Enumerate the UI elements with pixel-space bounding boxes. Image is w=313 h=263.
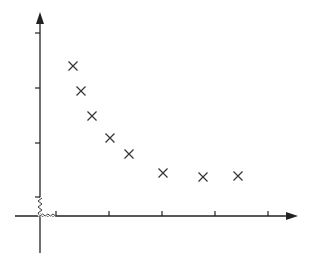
data-point-x-marker <box>69 62 78 71</box>
x-axis-arrow-icon <box>286 212 298 220</box>
data-point-x-marker <box>234 172 243 181</box>
scatter-chart <box>0 0 313 263</box>
data-point-x-marker <box>77 87 86 96</box>
data-point-x-marker <box>88 112 97 121</box>
data-point-x-marker <box>125 150 134 159</box>
y-axis-arrow-icon <box>36 12 44 24</box>
data-point-x-marker <box>159 169 168 178</box>
data-point-x-marker <box>106 134 115 143</box>
data-point-x-marker <box>199 173 208 182</box>
